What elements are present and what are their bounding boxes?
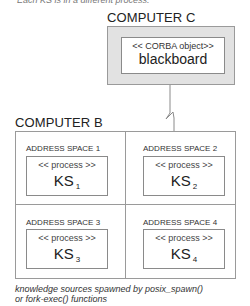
ks-name: KS2 — [144, 172, 224, 191]
process-stereotype: << process >> — [27, 233, 107, 243]
network-link-icon — [160, 85, 184, 132]
process-stereotype: << process >> — [144, 160, 224, 170]
process-ks2: << process >> KS2 — [143, 156, 225, 196]
blackboard-object: << CORBA object>> blackboard — [121, 37, 225, 74]
ks-name: KS3 — [27, 245, 107, 264]
address-space-2-label: ADDRESS SPACE 2 — [143, 144, 217, 153]
ks-name: KS4 — [144, 245, 224, 264]
process-ks1: << process >> KS1 — [26, 156, 108, 196]
computer-b-label: COMPUTER B — [15, 115, 103, 130]
bottom-caption: knowledge sources spawned by posix_spawn… — [15, 284, 203, 304]
address-space-3-label: ADDRESS SPACE 3 — [26, 218, 100, 227]
vertical-divider — [125, 131, 126, 279]
process-ks4: << process >> KS4 — [143, 229, 225, 269]
process-stereotype: << process >> — [144, 233, 224, 243]
address-space-4-label: ADDRESS SPACE 4 — [143, 218, 217, 227]
process-stereotype: << process >> — [27, 160, 107, 170]
horizontal-divider — [15, 204, 236, 205]
corba-stereotype: << CORBA object>> — [122, 41, 224, 51]
address-space-1-label: ADDRESS SPACE 1 — [26, 144, 100, 153]
ks-name: KS1 — [27, 172, 107, 191]
blackboard-name: blackboard — [122, 51, 224, 67]
process-ks3: << process >> KS3 — [26, 229, 108, 269]
computer-c-label: COMPUTER C — [107, 10, 195, 25]
top-caption-fragment: Each KS is in a different process. — [17, 0, 150, 5]
